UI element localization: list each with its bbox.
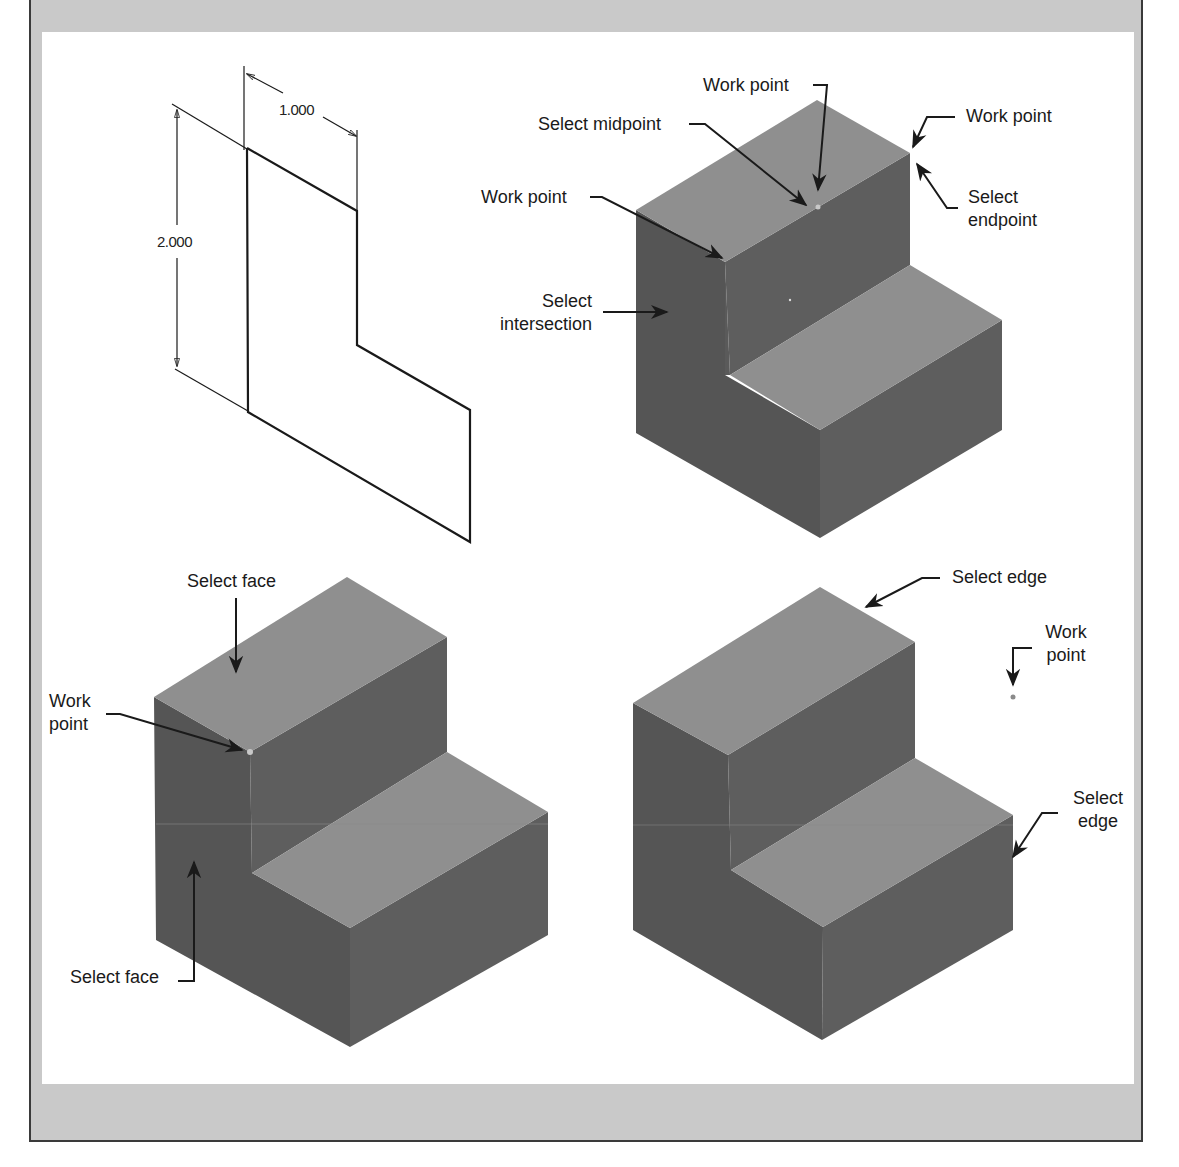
dimension-width-label: 1.000 — [278, 102, 315, 118]
label-select-edge-right-line2: edge — [1066, 810, 1130, 833]
label-select-edge-top: Select edge — [952, 566, 1047, 589]
work-point-marker — [816, 205, 821, 210]
label-work-point-top: Work point — [703, 74, 789, 97]
dimension-height-label: 2.000 — [156, 234, 193, 250]
dimension-line — [323, 117, 356, 136]
leader-work-point-right — [913, 117, 955, 147]
label-work-point-line1: Work — [49, 690, 91, 713]
work-point-marker — [247, 749, 253, 755]
label-select-intersection-line1: Select — [480, 290, 592, 313]
extension-line — [172, 104, 247, 149]
label-work-point-line1: Work — [1036, 621, 1096, 644]
profile-outline — [247, 148, 470, 542]
dimension-line — [247, 74, 283, 93]
label-work-point-line2: point — [1036, 644, 1096, 667]
work-point-marker — [1011, 695, 1016, 700]
stepped-block-bottom-right — [633, 587, 1016, 1040]
leader-select-edge-right — [1013, 813, 1058, 857]
label-select-endpoint-line1: Select — [968, 186, 1018, 209]
label-work-point-line2: point — [49, 713, 88, 736]
label-select-face-bottom: Select face — [70, 966, 159, 989]
label-select-endpoint-line2: endpoint — [968, 209, 1037, 232]
label-work-point-right: Work point — [966, 105, 1052, 128]
extension-line — [175, 369, 248, 411]
profile-sketch — [172, 66, 470, 542]
stepped-block-bottom-left — [154, 577, 548, 1047]
stepped-block-top-right — [636, 100, 1002, 538]
leader-work-point — [1013, 648, 1032, 685]
label-select-midpoint: Select midpoint — [538, 113, 661, 136]
label-select-edge-right-line1: Select — [1066, 787, 1130, 810]
label-select-face-top: Select face — [187, 570, 276, 593]
label-select-intersection-line2: intersection — [480, 313, 592, 336]
leader-select-edge-top — [866, 578, 940, 607]
leader-select-endpoint — [917, 164, 958, 208]
label-work-point-left: Work point — [481, 186, 567, 209]
